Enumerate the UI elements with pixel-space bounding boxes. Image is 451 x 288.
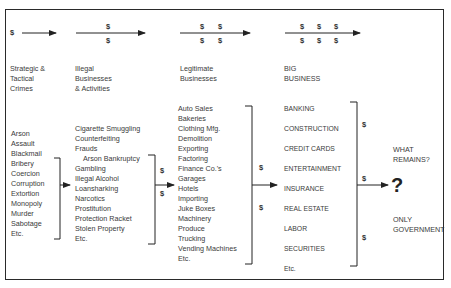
only-government-label: ONLYGOVERNMENT xyxy=(393,215,445,235)
dollar-sign: $ xyxy=(300,22,304,31)
dollar-sign: $ xyxy=(200,36,204,45)
list-item: Etc. xyxy=(11,229,45,239)
legitimate-businesses-list: Auto Sales Bakeries Clothing Mfg. Demoli… xyxy=(178,104,237,264)
list-item: Factoring xyxy=(178,154,237,164)
list-item: Etc. xyxy=(284,264,341,284)
stage-title-illegal-businesses: IllegalBusinesses& Activities xyxy=(75,64,112,94)
list-item: Etc. xyxy=(75,234,140,244)
list-item: Gambling xyxy=(75,164,140,174)
illegal-businesses-list: Cigarette Smuggling Counterfeiting Fraud… xyxy=(75,124,140,244)
list-item: Sabotage xyxy=(11,219,45,229)
list-item: Coercion xyxy=(11,169,45,179)
list-item: BANKING xyxy=(284,104,341,124)
list-item: Assault xyxy=(11,139,45,149)
list-item: LABOR xyxy=(284,224,341,244)
dollar-sign: $ xyxy=(106,36,110,45)
dollar-sign: $ xyxy=(317,22,321,31)
list-item: Vending Machines xyxy=(178,244,237,254)
dollar-sign: $ xyxy=(106,22,110,31)
list-item: Bribery xyxy=(11,159,45,169)
list-item: Bakeries xyxy=(178,114,237,124)
question-mark: ? xyxy=(391,174,403,197)
dollar-sign: $ xyxy=(10,28,14,37)
list-item: Garages xyxy=(178,174,237,184)
list-item: Exporting xyxy=(178,144,237,154)
list-item: Frauds xyxy=(75,144,140,154)
list-item: Narcotics xyxy=(75,194,140,204)
list-item: Demolition xyxy=(178,134,237,144)
dollar-sign: $ xyxy=(218,36,222,45)
dollar-sign: $ xyxy=(334,36,338,45)
list-item: Clothing Mfg. xyxy=(178,124,237,134)
dollar-sign: $ xyxy=(200,22,204,31)
crimes-list: Arson Assault Blackmail Bribery Coercion… xyxy=(11,129,45,239)
dollar-sign: $ xyxy=(160,166,164,175)
list-item: Finance Co.'s xyxy=(178,164,237,174)
list-item: Auto Sales xyxy=(178,104,237,114)
list-item: SECURITIES xyxy=(284,244,341,264)
list-item: Blackmail xyxy=(11,149,45,159)
list-item: CONSTRUCTION xyxy=(284,124,341,144)
list-item: Cigarette Smuggling xyxy=(75,124,140,134)
dollar-sign: $ xyxy=(362,233,366,242)
list-item: Arson Bankruptcy xyxy=(75,154,140,164)
stage-title-legitimate-businesses: LegitimateBusinesses xyxy=(180,64,217,84)
list-item: Loansharking xyxy=(75,184,140,194)
list-item: Monopoly xyxy=(11,199,45,209)
list-item: CREDIT CARDS xyxy=(284,144,341,164)
dollar-sign: $ xyxy=(259,163,263,172)
dollar-sign: $ xyxy=(300,36,304,45)
dollar-sign: $ xyxy=(362,120,366,129)
dollar-sign: $ xyxy=(160,189,164,198)
list-item: Hotels xyxy=(178,184,237,194)
list-item: Trucking xyxy=(178,234,237,244)
dollar-sign: $ xyxy=(218,22,222,31)
list-item: Murder xyxy=(11,209,45,219)
list-item: Protection Racket xyxy=(75,214,140,224)
stage-title-big-business: BIGBUSINESS xyxy=(284,64,320,84)
list-item: Produce xyxy=(178,224,237,234)
list-item: ENTERTAINMENT xyxy=(284,164,341,184)
list-item: Illegal Alcohol xyxy=(75,174,140,184)
list-item: INSURANCE xyxy=(284,184,341,204)
list-item: Prostitution xyxy=(75,204,140,214)
list-item: Etc. xyxy=(178,254,237,264)
big-business-list: BANKING CONSTRUCTION CREDIT CARDS ENTERT… xyxy=(284,104,341,284)
list-item: Extortion xyxy=(11,189,45,199)
list-item: Counterfeiting xyxy=(75,134,140,144)
dollar-sign: $ xyxy=(317,36,321,45)
list-item: Corruption xyxy=(11,179,45,189)
list-item: Stolen Property xyxy=(75,224,140,234)
dollar-sign: $ xyxy=(259,203,263,212)
list-item: REAL ESTATE xyxy=(284,204,341,224)
dollar-sign: $ xyxy=(362,174,366,183)
what-remains-label: WHATREMAINS? xyxy=(393,145,430,165)
list-item: Arson xyxy=(11,129,45,139)
stage-title-strategic-crimes: Strategic &TacticalCrimes xyxy=(10,64,45,94)
list-item: Importing xyxy=(178,194,237,204)
dollar-sign: $ xyxy=(334,22,338,31)
list-item: Machinery xyxy=(178,214,237,224)
list-item: Juke Boxes xyxy=(178,204,237,214)
